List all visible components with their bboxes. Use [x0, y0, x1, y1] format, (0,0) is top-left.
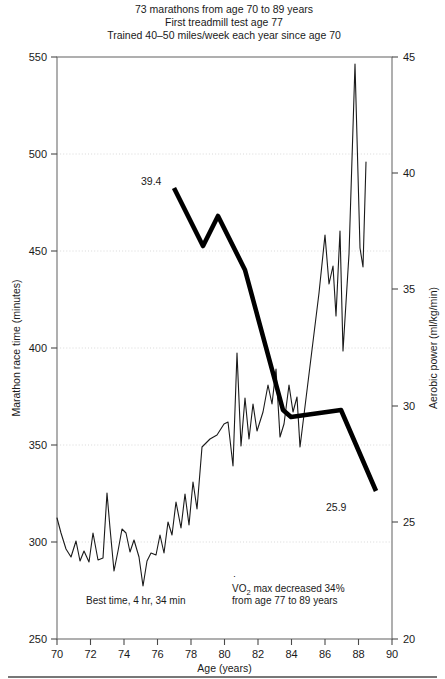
xtick-label-70: 70: [51, 648, 63, 660]
y2tick-label-45: 45: [403, 51, 415, 63]
y-axis-right-title: Aerobic power (ml/kg/min): [427, 287, 439, 409]
xtick-label-84: 84: [285, 648, 297, 660]
xtick-label-82: 82: [252, 648, 264, 660]
y2tick-label-30: 30: [403, 400, 415, 412]
marathon-aerobic-power-chart: 73 marathons from age 70 to 89 years Fir…: [0, 0, 445, 679]
vo2-start-label: 39.4: [141, 175, 162, 187]
ytick-label-250: 250: [29, 633, 47, 645]
vo2-dot-diacritic: ˙: [233, 575, 236, 586]
y2tick-label-40: 40: [403, 167, 415, 179]
ytick-label-450: 450: [29, 245, 47, 257]
ytick-label-400: 400: [29, 342, 47, 354]
best-time-annotation: Best time, 4 hr, 34 min: [86, 595, 186, 606]
vo2-end-label: 25.9: [326, 501, 347, 513]
y2tick-label-20: 20: [403, 633, 415, 645]
ytick-label-550: 550: [29, 51, 47, 63]
title-line-3: Trained 40–50 miles/week each year since…: [107, 29, 341, 41]
title-line-2: First treadmill test age 77: [165, 16, 283, 28]
y2tick-label-25: 25: [403, 516, 415, 528]
xtick-label-86: 86: [319, 648, 331, 660]
chart-background: [0, 0, 445, 679]
ytick-label-500: 500: [29, 148, 47, 160]
y2tick-label-35: 35: [403, 283, 415, 295]
vo2-rest: max decreased 34%: [251, 583, 345, 594]
xtick-label-78: 78: [185, 648, 197, 660]
xtick-label-80: 80: [218, 648, 230, 660]
y-axis-left-title: Marathon race time (minutes): [10, 279, 22, 416]
xtick-label-76: 76: [151, 648, 163, 660]
xtick-label-90: 90: [386, 648, 398, 660]
x-axis-title: Age (years): [197, 662, 251, 674]
ytick-label-300: 300: [29, 536, 47, 548]
ytick-label-350: 350: [29, 439, 47, 451]
title-line-1: 73 marathons from age 70 to 89 years: [135, 3, 313, 15]
xtick-label-88: 88: [352, 648, 364, 660]
vo2-annotation-line-2: from age 77 to 89 years: [232, 595, 338, 606]
xtick-label-74: 74: [118, 648, 130, 660]
xtick-label-72: 72: [84, 648, 96, 660]
